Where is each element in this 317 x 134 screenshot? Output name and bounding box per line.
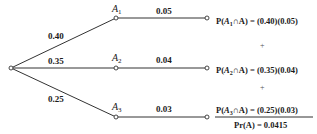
- formula-a3: P(A3∩A) = (0.25)(0.03): [216, 105, 298, 116]
- formula-a2: P(A2∩A) = (0.35)(0.04): [216, 65, 298, 76]
- formula-a1: P(A1∩A) = (0.40)(0.05): [216, 16, 298, 27]
- node-a3: [114, 115, 118, 119]
- node-a3-label: A3: [111, 101, 122, 114]
- prob-a1: 0.40: [48, 31, 64, 41]
- outcome-node-1: [205, 16, 209, 20]
- prob-a3: 0.25: [48, 94, 64, 104]
- total-probability: Pr(A) = 0.0415: [234, 120, 287, 130]
- node-a2: [114, 66, 118, 70]
- prob-a2: 0.35: [48, 56, 64, 66]
- edge-root-a3: [11, 68, 116, 117]
- root-node: [9, 66, 13, 70]
- node-a2-label: A2: [111, 52, 122, 65]
- outcome-node-3: [205, 115, 209, 119]
- outcome-node-2: [205, 66, 209, 70]
- prob-a-given-a2: 0.04: [156, 55, 172, 65]
- prob-a-given-a3: 0.03: [156, 104, 172, 114]
- plus-sign-2: +: [260, 83, 265, 92]
- probability-tree-diagram: A1 A2 A3 0.40 0.35 0.25 0.05 0.04 0.03 P…: [0, 0, 317, 134]
- prob-a-given-a1: 0.05: [156, 6, 172, 16]
- node-a1-label: A1: [111, 3, 122, 16]
- plus-sign-1: +: [260, 41, 265, 50]
- node-a1: [114, 16, 118, 20]
